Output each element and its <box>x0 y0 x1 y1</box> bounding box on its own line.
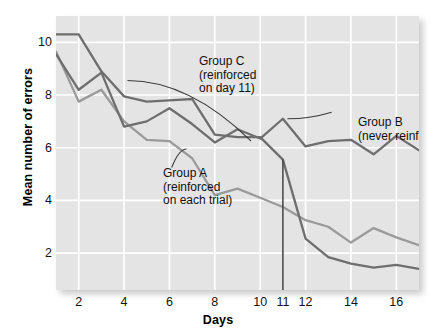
chart-figure: Group C (reinforced on day 11) Group B (… <box>0 0 436 333</box>
annotation-group-c: Group C (reinforced on day 11) <box>199 55 256 96</box>
x-tick-label-16: 16 <box>381 296 411 309</box>
leader-line-group-b <box>287 112 331 119</box>
annotation-group-b: Group B (never reinforced) <box>358 116 419 143</box>
x-tick-label-2: 2 <box>64 296 94 309</box>
y-tick-label-2: 2 <box>6 247 52 260</box>
x-tick-label-14: 14 <box>336 296 366 309</box>
x-tick-label-12: 12 <box>291 296 321 309</box>
x-tick-label-4: 4 <box>109 296 139 309</box>
x-tick-label-8: 8 <box>200 296 230 309</box>
x-tick-label-6: 6 <box>154 296 184 309</box>
y-axis-title: Mean number of errors <box>21 47 35 227</box>
x-axis-ticks: 24681011121416 <box>0 296 436 314</box>
annotation-group-a: Group A (reinforced on each trial) <box>163 167 232 208</box>
plot-area: Group C (reinforced on day 11) Group B (… <box>56 16 419 290</box>
x-axis-title: Days <box>0 313 436 327</box>
